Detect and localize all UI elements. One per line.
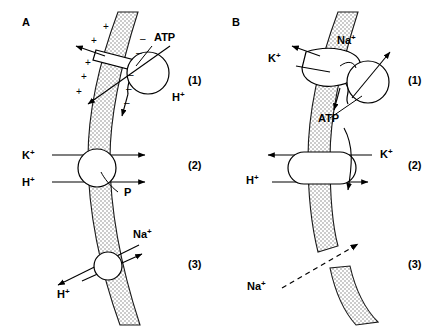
- carrier-capsule-b2: [288, 152, 356, 184]
- plus-charge: +: [76, 86, 82, 97]
- plus-charge: +: [103, 21, 109, 32]
- minus-charge: –: [136, 47, 142, 58]
- minus-charge: –: [140, 33, 146, 44]
- step-marker-a3: (3): [188, 258, 202, 270]
- step-marker-b3: (3): [408, 258, 422, 270]
- membrane-transport-figure: A + + + + + – – – –: [0, 0, 441, 334]
- plus-charge: +: [81, 71, 87, 82]
- step-marker-a2: (2): [188, 159, 202, 171]
- phosphate-label-a: P: [124, 186, 131, 198]
- atp-label-b: ATP: [318, 112, 339, 124]
- minus-charge: –: [124, 97, 130, 108]
- antiporter-circle-a3: [94, 252, 122, 280]
- figure-background: [0, 0, 441, 334]
- plus-charge: +: [91, 35, 97, 46]
- carrier-circle-a2: [78, 149, 116, 187]
- minus-charge: –: [128, 69, 134, 80]
- panel-a-label: A: [22, 16, 30, 28]
- figure-canvas: A + + + + + – – – –: [0, 0, 441, 334]
- step-marker-b1: (1): [408, 74, 422, 86]
- step-marker-b2: (2): [408, 159, 422, 171]
- minus-charge: –: [126, 83, 132, 94]
- panel-b-label: B: [232, 16, 240, 28]
- plus-charge: +: [85, 57, 91, 68]
- atp-label-a: ATP: [154, 31, 175, 43]
- step-marker-a1: (1): [188, 74, 202, 86]
